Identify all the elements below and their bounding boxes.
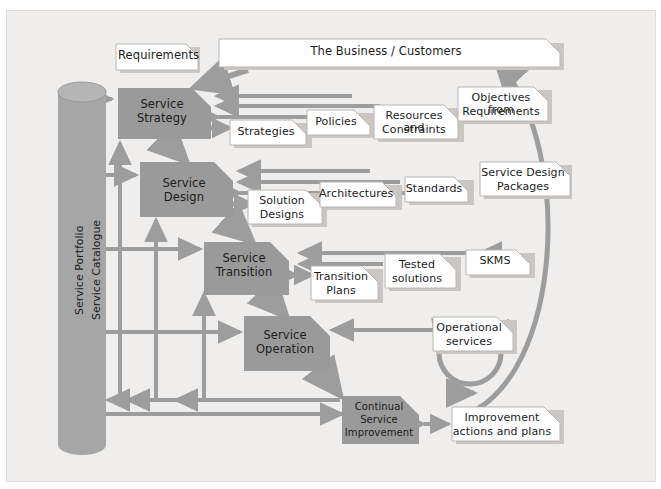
shape-service-transition (204, 242, 289, 295)
tag-solution-designs (248, 190, 322, 224)
tag-skms (466, 250, 530, 275)
shape-service-operation (244, 316, 330, 371)
tag-service-design-packages (480, 162, 570, 196)
shape-service-design (140, 162, 233, 217)
itil-lifecycle-diagram: Requirements The Business / Customers Se… (0, 0, 661, 489)
cylinder-label-service-catalogue: Service Catalogue (90, 220, 103, 320)
cylinder-label-service-portfolio: Service Portfolio (73, 226, 86, 315)
tag-tested-solutions (385, 254, 456, 288)
tag-objectives-from-requirements (458, 87, 548, 121)
tag-operational-services (433, 317, 513, 351)
tag-improvement-actions-and-plans (452, 407, 560, 441)
tag-architectures (320, 182, 396, 207)
tag-requirements (116, 44, 198, 70)
shape-continual-service-improvement (342, 396, 419, 444)
tag-business-customers (219, 39, 560, 67)
shape-service-strategy (118, 88, 211, 139)
tag-resources-and-constraints (374, 105, 458, 139)
tag-strategies (230, 120, 306, 145)
